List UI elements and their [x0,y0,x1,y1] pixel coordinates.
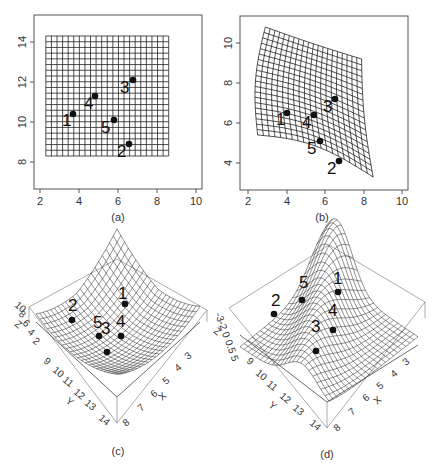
svg-text:9: 9 [42,355,54,367]
landmark-label: 4 [328,301,337,320]
svg-text:5: 5 [374,379,386,391]
front-edges [36,322,200,397]
svg-text:3: 3 [182,349,194,361]
caption-d: (d) [320,448,333,460]
y-tick: 6 [222,120,234,126]
svg-text:9: 9 [245,355,257,367]
x-tick: 6 [322,195,328,207]
plot-frame [34,15,202,189]
x-axis [248,190,402,194]
landmark-label: 4 [84,94,93,113]
x-tick: 8 [361,195,367,207]
x-tick: 4 [76,195,82,207]
landmarks [271,289,342,355]
x-tick: 4 [284,195,290,207]
landmark-label: 3 [323,97,332,116]
svg-text:12: 12 [278,390,294,406]
y-tick: 10 [16,116,28,128]
landmark-label: 5 [101,118,110,137]
x-axis [40,189,196,193]
landmark-label: 2 [68,296,77,315]
svg-text:11: 11 [265,378,280,393]
landmark-label: 3 [120,78,129,97]
svg-text:8: 8 [331,421,343,433]
x-tick: 8 [154,195,160,207]
x-axis-label: X [156,390,168,403]
panel-c: 1 2 3 4 5 9 10 11 12 13 14 Y 3 4 5 6 7 8… [13,229,207,457]
x-tick: 10 [396,195,408,207]
caption-a: (a) [111,211,124,223]
landmark-label: 1 [118,284,127,303]
svg-text:8: 8 [120,416,132,428]
x-tick: 2 [245,195,251,207]
caption-c: (c) [112,445,125,457]
svg-text:-3-2 0 0.5 5: -3-2 0 0.5 5 [213,311,241,363]
x-tick: 6 [115,195,121,207]
svg-text:4: 4 [388,367,400,379]
svg-text:5: 5 [160,374,172,386]
svg-text:13: 13 [83,397,99,413]
landmark-label: 4 [116,312,125,331]
regular-grid [46,36,169,156]
svg-text:10: 10 [254,367,270,383]
landmark-label: 4 [302,113,311,132]
svg-text:6: 6 [360,391,372,403]
figure: 2 4 6 8 10 8 10 12 14 1 2 3 4 5 (a) [0,0,441,469]
x-axis-label: X [371,394,383,407]
x-tick: 2 [37,195,43,207]
y-tick: 8 [222,80,234,86]
landmark-label: 1 [62,111,71,130]
y-tick: 12 [16,76,28,88]
landmark-label: 5 [307,139,316,158]
z-axis-ticks: -3-2 0 0.5 5 Z [212,311,241,363]
panel-b: 2 4 6 8 10 4 6 8 10 1 2 3 4 5 (b) [222,16,408,223]
svg-text:11: 11 [61,374,76,389]
panel-d: 1 2 3 4 5 9 10 11 12 13 14 Y 3 4 5 6 7 8… [212,219,425,460]
x-tick: 10 [190,195,202,207]
svg-text:13: 13 [291,402,307,418]
landmark-label: 1 [333,269,342,288]
y-axis-label: Y [64,395,76,408]
svg-text:14: 14 [308,417,324,433]
landmark-label: 2 [117,142,126,161]
y-axis [30,42,34,162]
y-tick: 10 [222,37,234,49]
landmark-label: 5 [299,273,308,292]
landmark-label: 1 [276,110,285,129]
y-tick: 8 [16,159,28,165]
landmark-label: 3 [311,317,320,336]
svg-text:7: 7 [346,405,358,417]
svg-text:3: 3 [400,355,412,367]
landmark-label: 2 [327,159,336,178]
caption-b: (b) [315,211,328,223]
svg-text:4: 4 [172,361,184,373]
landmark-label: 2 [271,291,280,310]
panel-a: 2 4 6 8 10 8 10 12 14 1 2 3 4 5 (a) [16,15,202,223]
svg-text:2: 2 [31,335,43,347]
landmark-label: 5 [93,313,102,332]
y-axis-label: Y [267,399,279,412]
svg-text:7: 7 [135,401,147,413]
y-tick: 4 [222,160,234,166]
y-axis [236,43,240,163]
y-tick: 14 [16,36,28,48]
